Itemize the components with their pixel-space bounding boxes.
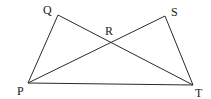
label-p: P bbox=[17, 84, 24, 98]
geometry-diagram: P Q R S T bbox=[0, 0, 211, 99]
label-r: R bbox=[105, 24, 113, 38]
segment-pq bbox=[28, 15, 58, 83]
segment-pt bbox=[28, 83, 193, 85]
segment-st bbox=[165, 16, 193, 85]
label-q: Q bbox=[43, 3, 52, 17]
label-t: T bbox=[195, 86, 203, 99]
segment-qt bbox=[58, 15, 193, 85]
segment-ps bbox=[28, 16, 165, 83]
label-s: S bbox=[171, 5, 178, 19]
